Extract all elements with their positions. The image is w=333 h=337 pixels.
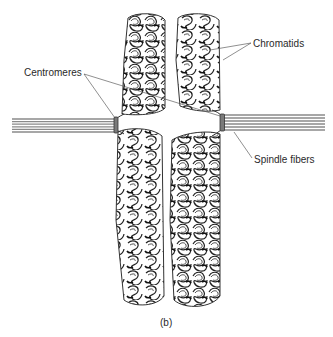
- left-chromatid-lower-arm: [116, 129, 164, 305]
- right-chromatid-lower-arm: [170, 132, 220, 306]
- panel-label: (b): [160, 317, 172, 328]
- left-chromatid-upper-arm: [122, 14, 165, 115]
- spindle-fibers-label: Spindle fibers: [254, 154, 315, 165]
- spindle-fibers-left: [12, 119, 115, 132]
- chromosome-diagram: [0, 0, 333, 337]
- right-chromatid-upper-arm: [176, 14, 220, 111]
- chromatids-label: Chromatids: [253, 38, 304, 49]
- centromeres-label: Centromeres: [24, 67, 82, 78]
- spindle-fibers-right: [224, 115, 325, 130]
- leader-lines: [84, 43, 252, 158]
- right-centromere: [220, 114, 225, 131]
- left-centromere: [114, 117, 118, 133]
